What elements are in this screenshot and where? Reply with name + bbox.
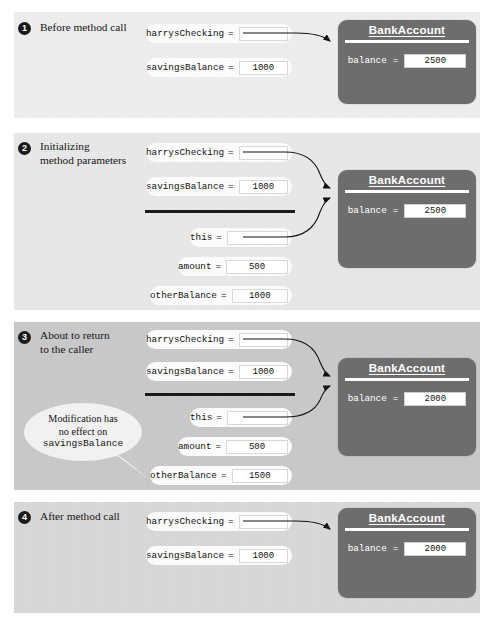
field-value-box: 2000 [404, 542, 466, 556]
equals-sign: = [221, 470, 227, 481]
variable-name: harrysChecking [146, 147, 224, 158]
step-badge-3: 3 [18, 331, 31, 344]
variable-row-amount-3: amount = 500 [178, 437, 292, 456]
figure-canvas: 1 Before method call harrysChecking = sa… [0, 0, 494, 625]
variable-name: otherBalance [150, 470, 217, 481]
variable-row-harryschecking-3: harrysChecking = [146, 330, 292, 349]
equals-sign: = [216, 232, 222, 243]
variable-row-harryschecking-4: harrysChecking = [146, 512, 292, 531]
equals-sign: = [228, 550, 234, 561]
object-title-divider [345, 40, 469, 43]
object-title-divider [345, 528, 469, 531]
equals-sign: = [215, 441, 221, 452]
step-caption-2-line1: Initializing [40, 140, 90, 152]
variable-row-harryschecking-2: harrysChecking = [146, 143, 292, 162]
callout-line-2: no effect on [59, 426, 107, 439]
step-caption-3: About to return to the caller [40, 329, 150, 356]
variable-value-box: 1500 [232, 469, 288, 483]
variable-value-box: 1000 [239, 549, 288, 563]
equals-sign: = [215, 261, 221, 272]
field-name: balance [348, 393, 387, 404]
equals-sign: = [393, 393, 399, 404]
variable-value-box: 1000 [232, 289, 288, 303]
annotation-callout: Modification has no effect on savingsBal… [24, 403, 142, 461]
variable-name: savingsBalance [146, 550, 224, 561]
variable-name: this [190, 232, 212, 243]
variable-name: otherBalance [150, 290, 217, 301]
variable-value-box: 1000 [239, 180, 288, 194]
object-field-balance-1: balance = 2500 [338, 54, 476, 68]
field-value-box: 2000 [404, 392, 466, 406]
variable-row-harryschecking-1: harrysChecking = [146, 24, 292, 43]
equals-sign: = [228, 147, 234, 158]
step-caption-4-line1: After method call [40, 510, 120, 522]
variable-value-box: 500 [226, 260, 288, 274]
variable-name: savingsBalance [146, 366, 224, 377]
equals-sign: = [221, 290, 227, 301]
field-value-box: 2500 [404, 54, 466, 68]
step-caption-2-line2: method parameters [40, 154, 126, 166]
field-name: balance [348, 543, 387, 554]
object-field-balance-4: balance = 2000 [338, 542, 476, 556]
object-field-balance-3: balance = 2000 [338, 392, 476, 406]
field-name: balance [348, 205, 387, 216]
variable-name: amount [178, 441, 211, 452]
object-box-2: BankAccount balance = 2500 [338, 170, 476, 268]
step-badge-1: 1 [18, 22, 31, 35]
callout-line-3: savingsBalance [43, 438, 124, 451]
step-caption-3-line2: to the caller [40, 343, 93, 355]
object-box-1: BankAccount balance = 2500 [338, 20, 476, 104]
equals-sign: = [216, 412, 222, 423]
variable-row-savingsbalance-4: savingsBalance = 1000 [146, 546, 292, 565]
variable-name: this [190, 412, 212, 423]
equals-sign: = [393, 55, 399, 66]
equals-sign: = [228, 181, 234, 192]
variable-value-box [239, 515, 288, 529]
variable-row-this-3: this = [190, 408, 292, 427]
object-box-4: BankAccount balance = 2000 [338, 508, 476, 598]
equals-sign: = [228, 516, 234, 527]
equals-sign: = [228, 62, 234, 73]
step-caption-4: After method call [40, 510, 150, 524]
stack-frame-divider-2 [145, 210, 295, 213]
variable-row-this-2: this = [190, 228, 292, 247]
object-class-title: BankAccount [338, 20, 476, 36]
equals-sign: = [228, 334, 234, 345]
variable-name: harrysChecking [146, 516, 224, 527]
object-box-3: BankAccount balance = 2000 [338, 358, 476, 456]
variable-value-box: 1000 [239, 61, 288, 75]
variable-row-savingsbalance-1: savingsBalance = 1000 [146, 58, 292, 77]
object-title-divider [345, 378, 469, 381]
variable-value-box [227, 231, 288, 245]
step-badge-2: 2 [18, 142, 31, 155]
variable-name: savingsBalance [146, 62, 224, 73]
variable-row-savingsbalance-3: savingsBalance = 1000 [146, 362, 292, 381]
equals-sign: = [393, 543, 399, 554]
step-badge-4: 4 [18, 511, 31, 524]
variable-name: savingsBalance [146, 181, 224, 192]
callout-line-1: Modification has [48, 413, 117, 426]
field-name: balance [348, 55, 387, 66]
object-field-balance-2: balance = 2500 [338, 204, 476, 218]
variable-value-box [239, 146, 288, 160]
variable-row-savingsbalance-2: savingsBalance = 1000 [146, 177, 292, 196]
step-caption-3-line1: About to return [40, 329, 110, 341]
step-caption-1: Before method call [40, 21, 150, 35]
variable-value-box: 1000 [239, 365, 288, 379]
object-class-title: BankAccount [338, 358, 476, 374]
equals-sign: = [393, 205, 399, 216]
variable-name: harrysChecking [146, 334, 224, 345]
variable-value-box [239, 333, 288, 347]
variable-value-box [227, 411, 288, 425]
variable-name: harrysChecking [146, 28, 224, 39]
step-caption-2: Initializing method parameters [40, 140, 150, 167]
variable-row-amount-2: amount = 500 [178, 257, 292, 276]
object-title-divider [345, 190, 469, 193]
variable-value-box [239, 27, 288, 41]
variable-row-otherbalance-2: otherBalance = 1000 [150, 286, 292, 305]
variable-value-box: 500 [226, 440, 288, 454]
variable-name: amount [178, 261, 211, 272]
variable-row-otherbalance-3: otherBalance = 1500 [150, 466, 292, 485]
step-caption-1-line1: Before method call [40, 21, 127, 33]
stack-frame-divider-3 [145, 393, 295, 396]
